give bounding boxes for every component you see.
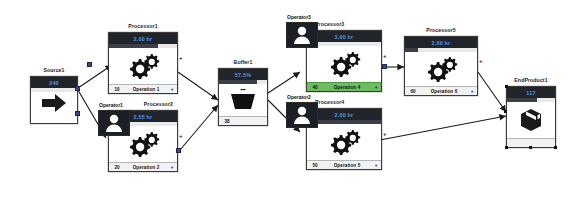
node-titlebar: 2.00 hr	[307, 109, 381, 120]
port-processor2-plus-top[interactable]: +	[179, 133, 183, 139]
link-processor4-endproduct1	[380, 116, 506, 140]
gears-icon	[126, 131, 160, 157]
footer-add-icon[interactable]: +	[167, 165, 177, 170]
node-body	[307, 46, 381, 82]
footer-operation-label: Operation 6	[421, 89, 467, 94]
port-processor1-plus-top[interactable]: +	[179, 55, 183, 61]
port-processor3-plus-top[interactable]: +	[383, 53, 387, 59]
port-endproduct1-corner-bm[interactable]	[529, 146, 532, 149]
node-title-value: 117	[526, 90, 535, 96]
gears-icon	[327, 129, 361, 155]
node-title-value: 2.00 hr	[432, 40, 451, 46]
port-endproduct1-corner-br[interactable]	[554, 146, 557, 149]
footer-add-icon[interactable]: +	[371, 85, 381, 90]
port-processor4-plus-top[interactable]: +	[383, 131, 387, 137]
node-caption: Processor5	[426, 27, 455, 33]
node-footer[interactable]: 50 Operation 5 +	[307, 160, 381, 169]
node-body	[405, 52, 477, 86]
gears-icon	[424, 56, 458, 82]
person-icon	[104, 113, 124, 133]
node-titlebar: 2.00 hr	[109, 33, 177, 44]
node-titlebar: 2.00 hr	[405, 37, 477, 48]
footer-add-icon[interactable]: +	[467, 89, 477, 94]
node-processor1[interactable]: Processor1 2.00 hr 10 Operation 1 +	[108, 32, 178, 94]
port-endproduct1-corner-tl[interactable]	[505, 85, 508, 88]
port-endproduct1-corner-bl[interactable]	[505, 146, 508, 149]
footer-count: 10	[109, 87, 125, 92]
port-processor2-in[interactable]	[75, 111, 80, 116]
footer-operation-label: Operation 4	[323, 85, 371, 90]
node-body	[219, 84, 267, 116]
node-buffer1[interactable]: Buffer1 57.5% 38	[218, 68, 268, 126]
operator-operator3[interactable]: Operator3	[286, 22, 318, 48]
operator-caption: Operator3	[287, 14, 311, 20]
node-footer[interactable]: 60 Operation 6 +	[405, 86, 477, 95]
person-icon	[292, 25, 312, 45]
node-title-value: 240	[49, 80, 59, 86]
simulation-canvas[interactable]: Source1 240 Processor1 2.00 hr	[0, 0, 573, 197]
port-source1-out[interactable]	[75, 86, 80, 91]
operator-caption: Operator1	[99, 102, 123, 108]
node-body	[31, 92, 77, 114]
link-processor1-buffer1	[178, 72, 218, 100]
node-footer[interactable]: 10 Operation 1 +	[109, 84, 177, 93]
node-processor5[interactable]: Processor5 2.00 hr 60 Operation 6 +	[404, 36, 478, 96]
link-buffer1-processor3	[268, 72, 300, 93]
port-endproduct1-in[interactable]	[504, 110, 507, 113]
node-caption: Source1	[43, 67, 64, 73]
gears-icon	[126, 53, 160, 79]
node-body	[507, 102, 555, 138]
node-caption: Processor4	[315, 99, 344, 105]
operator-caption: Operator2	[287, 94, 311, 100]
node-body	[307, 124, 381, 160]
operator-operator1[interactable]: Operator1	[98, 110, 130, 136]
node-titlebar: 240	[31, 77, 77, 88]
node-title-value: 57.5%	[235, 72, 251, 78]
node-caption: Processor1	[128, 23, 157, 29]
operator-operator2[interactable]: Operator2	[286, 102, 318, 128]
footer-add-icon[interactable]: +	[167, 87, 177, 92]
node-caption: EndProduct1	[514, 77, 547, 83]
node-footer[interactable]: 38	[219, 116, 267, 125]
person-icon	[292, 105, 312, 125]
node-titlebar: 117	[507, 87, 555, 98]
link-processor2-buffer1	[180, 105, 218, 150]
footer-operation-label: Operation 1	[125, 87, 167, 92]
node-titlebar: 57.5%	[219, 69, 267, 80]
link-source1-processor1	[78, 65, 112, 88]
node-footer[interactable]: 20 Operation 2 +	[109, 162, 177, 171]
node-caption: Processor3	[315, 21, 344, 27]
node-title-value: 2.00 hr	[335, 112, 354, 118]
port-processor2-out[interactable]	[176, 148, 181, 153]
node-title-value: 3.00 hr	[335, 34, 354, 40]
box-icon	[518, 107, 544, 133]
node-caption: Buffer1	[234, 59, 253, 65]
link-processor5-endproduct1	[478, 72, 506, 112]
node-endproduct1[interactable]: EndProduct1 117	[506, 86, 556, 148]
node-source1[interactable]: Source1 240	[30, 76, 78, 124]
basket-icon	[229, 89, 257, 111]
port-processor1-in[interactable]	[87, 62, 92, 67]
node-title-value: 2.55 hr	[134, 114, 153, 120]
node-titlebar: 3.00 hr	[307, 31, 381, 42]
port-processor5-plus-top[interactable]: +	[479, 58, 483, 64]
footer-add-icon[interactable]: +	[371, 163, 381, 168]
footer-count: 60	[405, 89, 421, 94]
footer-count: 20	[109, 165, 125, 170]
node-caption: Processor2	[144, 101, 173, 107]
gears-icon	[327, 51, 361, 77]
node-body	[109, 48, 177, 84]
port-processor3-out[interactable]	[382, 64, 387, 69]
footer-operation-label: Operation 2	[125, 165, 167, 170]
arrow-right-icon	[41, 93, 67, 113]
footer-count: 50	[307, 163, 323, 168]
node-title-value: 2.00 hr	[134, 36, 153, 42]
footer-operation-label: Operation 5	[323, 163, 371, 168]
footer-count: 38	[219, 119, 235, 124]
footer-count: 40	[307, 85, 323, 90]
node-footer[interactable]: 40 Operation 4 +	[307, 82, 381, 91]
